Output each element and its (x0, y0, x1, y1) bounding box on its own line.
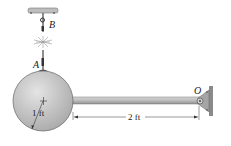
diagram-canvas: B A 1 ft O 2 ft (0, 0, 231, 146)
label-rod-length: 2 ft (128, 112, 141, 122)
cut-burst-icon (34, 36, 52, 48)
rod (70, 97, 200, 104)
dimension-arrow-right (194, 116, 198, 119)
label-point-a: A (32, 59, 40, 70)
cord-upper (41, 13, 45, 32)
label-point-b: B (49, 19, 55, 30)
cord-lower (38, 50, 48, 71)
label-radius: 1 ft (32, 108, 45, 118)
label-point-o: O (194, 85, 201, 96)
dimension-arrow-left (74, 116, 78, 119)
